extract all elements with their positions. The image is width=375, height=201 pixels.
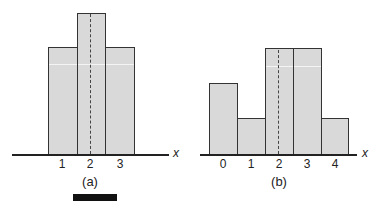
x-axis-b <box>200 154 357 156</box>
bar-a-2 <box>77 13 106 155</box>
tick-b-2: 2 <box>269 157 289 171</box>
tick-a-1: 1 <box>52 157 72 171</box>
bar-a-1 <box>48 47 78 155</box>
mean-line-b <box>278 50 279 154</box>
bar-b-2 <box>265 48 294 155</box>
tick-a-3: 3 <box>110 157 130 171</box>
bar-b-0 <box>209 83 238 155</box>
tick-a-2: 2 <box>80 157 100 171</box>
x-axis-label-a: x <box>173 146 179 160</box>
mean-line-a <box>90 14 91 154</box>
tick-b-4: 4 <box>325 157 345 171</box>
bar-b-3 <box>293 48 322 155</box>
histogram-b: x 0 1 2 3 4 (b) <box>185 0 375 201</box>
caption-a: (a) <box>70 174 110 189</box>
caption-b: (b) <box>259 174 299 189</box>
tick-b-3: 3 <box>297 157 317 171</box>
x-axis-a <box>12 154 169 156</box>
black-bar <box>73 194 117 201</box>
tick-b-0: 0 <box>213 157 233 171</box>
bar-a-3 <box>105 47 135 155</box>
bar-b-4 <box>321 118 349 155</box>
histogram-a: x 1 2 3 (a) <box>0 0 190 201</box>
bar-b-1 <box>237 118 266 155</box>
tick-b-1: 1 <box>241 157 261 171</box>
x-axis-label-b: x <box>362 146 368 160</box>
